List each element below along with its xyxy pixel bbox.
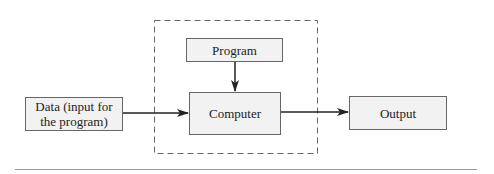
data-box: Data (input for the program)	[25, 97, 123, 131]
data-label: Data (input for the program)	[30, 99, 118, 129]
computer-label: Computer	[209, 106, 261, 121]
diagram-canvas: Program Computer Data (input for the pro…	[0, 0, 494, 174]
diagram-lines	[0, 0, 494, 174]
program-box: Program	[186, 38, 283, 62]
computer-box: Computer	[189, 92, 281, 135]
output-box: Output	[349, 96, 447, 130]
program-label: Program	[212, 43, 257, 58]
output-label: Output	[380, 106, 416, 121]
